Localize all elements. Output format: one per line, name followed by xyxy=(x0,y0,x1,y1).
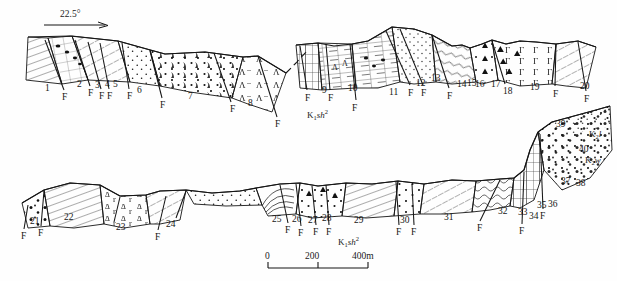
fault-label-lower-F: F xyxy=(540,212,545,222)
formation-label-upper-k1sh2: K1sh2 xyxy=(307,111,328,120)
unit-number-34: 34 xyxy=(529,212,539,222)
svg-text:Λ: Λ xyxy=(342,59,348,68)
fault-label-upper-F: F xyxy=(275,120,280,130)
fault-label-lower-F: F xyxy=(155,233,160,243)
scale-tick-0: 0 xyxy=(265,252,270,262)
fm-italic-upper: sh xyxy=(317,110,325,120)
formation-label-lower-k1sh2: K1sh2 xyxy=(338,238,359,247)
fm-sup-upper: 2 xyxy=(325,108,328,115)
unit-number-32: 32 xyxy=(498,207,508,217)
fault-label-upper-F: F xyxy=(352,104,357,114)
fault-label-upper-F: F xyxy=(88,89,93,99)
unit-number-13: 13 xyxy=(431,74,441,84)
fm-sub-k2w: 2 xyxy=(592,159,595,166)
unit-number-16: 16 xyxy=(475,80,485,90)
fault-label-upper-F: F xyxy=(127,92,132,102)
unit-number-17: 17 xyxy=(491,80,501,90)
unit-number-7: 7 xyxy=(188,92,193,102)
fault-label-upper-F: F xyxy=(99,92,104,102)
unit-number-11: 11 xyxy=(389,88,398,98)
fm-italic-lower: sh xyxy=(348,237,356,247)
unit-number-9: 9 xyxy=(322,86,327,96)
fault-label-lower-F: F xyxy=(38,229,43,239)
unit-number-14: 14 xyxy=(457,80,467,90)
unit-number-2: 2 xyxy=(77,80,82,90)
unit-number-27: 27 xyxy=(308,216,318,226)
fm-sub-upper: 1 xyxy=(314,114,317,121)
fault-label-upper-F: F xyxy=(584,95,589,105)
unit-number-33: 33 xyxy=(518,208,528,218)
fm-base-k2l: K xyxy=(589,129,596,139)
unit-number-40: 40 xyxy=(579,145,589,155)
unit-number-3: 3 xyxy=(95,81,100,91)
fault-label-lower-F: F xyxy=(313,228,318,238)
formation-label-k2l: K2l xyxy=(589,130,601,139)
fault-label-upper-F: F xyxy=(328,94,333,104)
unit-number-26: 26 xyxy=(292,215,302,225)
fault-label-upper-F: F xyxy=(230,105,235,115)
fault-label-upper-F: F xyxy=(107,92,112,102)
fault-label-upper-F: F xyxy=(305,94,310,104)
unit-number-4: 4 xyxy=(105,80,110,90)
unit-number-6: 6 xyxy=(137,86,142,96)
fault-label-upper-F: F xyxy=(62,93,67,103)
unit-number-19: 19 xyxy=(530,83,540,93)
cross-section-drawing: Γ r Δ Λ – xyxy=(0,0,617,281)
fm-base-upper: K xyxy=(307,110,314,120)
fm-sub-lower: 1 xyxy=(345,241,348,248)
dip-angle-label: 22.5° xyxy=(60,10,80,20)
formation-label-k2w: K2w xyxy=(585,156,601,165)
unit-number-24: 24 xyxy=(166,220,176,230)
unit-number-1: 1 xyxy=(45,84,50,94)
unit-number-31: 31 xyxy=(444,213,454,223)
unit-number-5: 5 xyxy=(113,80,118,90)
fault-label-lower-F: F xyxy=(396,228,401,238)
unit-number-22: 22 xyxy=(64,213,74,223)
fault-label-upper-F: F xyxy=(408,89,413,99)
fm-base-lower: K xyxy=(338,237,345,247)
fault-label-lower-F: F xyxy=(477,224,482,234)
fm-base-k2w: K xyxy=(585,155,592,165)
unit-number-20: 20 xyxy=(580,82,590,92)
fault-label-lower-F: F xyxy=(285,226,290,236)
unit-number-10: 10 xyxy=(348,84,358,94)
fault-label-upper-F: F xyxy=(447,92,452,102)
unit-number-18: 18 xyxy=(503,87,513,97)
fault-label-lower-F: F xyxy=(411,228,416,238)
unit-number-28: 28 xyxy=(322,214,332,224)
unit-number-25: 25 xyxy=(272,215,282,225)
unit-number-38: 38 xyxy=(576,179,586,189)
scale-tick-400m: 400m xyxy=(352,252,374,262)
unit-number-8: 8 xyxy=(248,99,253,109)
fault-label-upper-F: F xyxy=(553,90,558,100)
unit-number-30: 30 xyxy=(400,216,410,226)
unit-number-39: 39 xyxy=(556,120,566,130)
unit-number-37: 37 xyxy=(561,177,571,187)
svg-text:Λ: Λ xyxy=(332,63,338,72)
fault-label-upper-F: F xyxy=(160,101,165,111)
unit-number-21: 21 xyxy=(30,217,40,227)
unit-number-29: 29 xyxy=(354,216,364,226)
fm-sup-lower: 2 xyxy=(356,235,359,242)
fault-label-lower-F: F xyxy=(298,229,303,239)
fm-italic-k2l: l xyxy=(599,129,602,139)
unit-number-35: 35 xyxy=(537,201,547,211)
fm-sub-k2l: 2 xyxy=(596,133,599,140)
fault-label-lower-F: F xyxy=(519,227,524,237)
fault-label-upper-F: F xyxy=(421,89,426,99)
fault-label-lower-F: F xyxy=(326,228,331,238)
unit-number-36: 36 xyxy=(548,200,558,210)
fm-italic-k2w: w xyxy=(595,155,601,165)
unit-number-23: 23 xyxy=(116,223,126,233)
geological-cross-section-figure: Γ r Δ Λ – xyxy=(0,0,617,281)
scale-tick-200: 200 xyxy=(305,252,319,262)
fault-label-lower-F: F xyxy=(21,232,26,242)
